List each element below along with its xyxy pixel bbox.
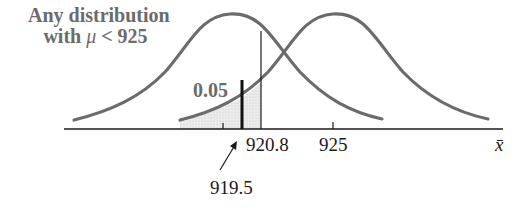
hypothesized-mean-label: 925: [319, 134, 348, 156]
axis-label-xbar: x̄: [495, 134, 503, 156]
mu-symbol: μ: [86, 25, 96, 47]
observed-value-label: 919.5: [210, 177, 253, 199]
null-distribution-curve: [180, 14, 488, 120]
annotation-line-1: Any distribution: [28, 5, 163, 26]
observed-value-arrow: [220, 145, 235, 170]
annotation-suffix: < 925: [96, 25, 147, 47]
alpha-label: 0.05: [193, 79, 228, 102]
annotation-prefix: with: [43, 25, 86, 47]
critical-value-label: 920.8: [246, 134, 289, 156]
annotation-line-2: with μ < 925: [28, 26, 163, 47]
distribution-annotation: Any distribution with μ < 925: [28, 5, 163, 47]
